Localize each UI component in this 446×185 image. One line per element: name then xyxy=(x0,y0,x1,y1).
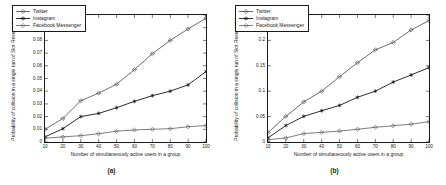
legend-item-twitter[interactable]: Twitter xyxy=(238,8,304,15)
legend-label: Twitter xyxy=(33,9,48,14)
y-tick-label: 0.05 xyxy=(33,76,42,81)
legend-item-facebook-messenger[interactable]: Facebook Messenger xyxy=(238,22,304,29)
legend-item-instagram[interactable]: Instagram xyxy=(15,15,81,22)
legend-marker-diamond-icon xyxy=(238,22,254,29)
y-tick-label: 0.06 xyxy=(33,64,42,69)
x-tick-label: 70 xyxy=(150,145,155,150)
y-tick-label: 0.15 xyxy=(256,64,265,69)
panel-a-legend: TwitterInstagramFacebook Messenger xyxy=(12,5,86,32)
y-tick-label: 0.05 xyxy=(256,114,265,119)
y-tick-label: 0.1 xyxy=(259,89,265,94)
y-tick-label: 0.08 xyxy=(33,38,42,43)
y-tick-label: 0.07 xyxy=(33,51,42,56)
x-tick-label: 100 xyxy=(202,145,210,150)
x-tick-label: 50 xyxy=(114,145,119,150)
x-tick-label: 70 xyxy=(373,145,378,150)
panel-a: Probability of collision in a single run… xyxy=(0,0,223,185)
panel-a-y-axis-label: Probability of collision in a single run… xyxy=(4,14,24,143)
legend-label: Instagram xyxy=(33,16,55,21)
panel-b-legend: TwitterInstagramFacebook Messenger xyxy=(235,5,309,32)
legend-item-facebook-messenger[interactable]: Facebook Messenger xyxy=(15,22,81,29)
legend-marker-diamond-icon xyxy=(15,22,31,29)
x-tick-label: 60 xyxy=(355,145,360,150)
legend-item-twitter[interactable]: Twitter xyxy=(15,8,81,15)
x-tick-label: 30 xyxy=(78,145,83,150)
panel-b: Probability of collision in a single run… xyxy=(223,0,446,185)
x-tick-label: 50 xyxy=(337,145,342,150)
x-tick-label: 80 xyxy=(168,145,173,150)
panel-a-plot-svg xyxy=(45,15,206,142)
panel-b-caption: (b) xyxy=(223,167,446,174)
legend-marker-asterisk-icon xyxy=(238,15,254,22)
legend-label: Instagram xyxy=(256,16,278,21)
x-tick-label: 40 xyxy=(319,145,324,150)
x-tick-label: 20 xyxy=(60,145,65,150)
y-tick-label: 0.02 xyxy=(33,114,42,119)
legend-marker-diamond-icon xyxy=(15,8,31,15)
y-tick-label: 0.03 xyxy=(33,102,42,107)
x-tick-label: 90 xyxy=(186,145,191,150)
panel-b-plot-area: 00.050.10.150.20.25102030405060708090100 xyxy=(267,14,430,143)
y-tick-label: 0.04 xyxy=(33,89,42,94)
panel-a-caption: (a) xyxy=(0,167,223,174)
x-tick-label: 90 xyxy=(409,145,414,150)
x-tick-label: 20 xyxy=(283,145,288,150)
panel-a-plot-area: 00.010.020.030.040.050.060.070.080.090.1… xyxy=(44,14,207,143)
y-tick-label: 0.01 xyxy=(33,127,42,132)
legend-label: Facebook Messenger xyxy=(256,23,304,28)
x-tick-label: 10 xyxy=(265,145,270,150)
legend-label: Facebook Messenger xyxy=(33,23,81,28)
x-tick-label: 30 xyxy=(301,145,306,150)
panel-b-plot-svg xyxy=(268,15,429,142)
legend-marker-diamond-icon xyxy=(238,8,254,15)
x-tick-label: 80 xyxy=(391,145,396,150)
figure-two-panel-line-charts: Probability of collision in a single run… xyxy=(0,0,446,185)
legend-item-instagram[interactable]: Instagram xyxy=(238,15,304,22)
panel-a-x-axis-label: Number of simultaneously active users in… xyxy=(44,152,207,157)
panel-b-x-axis-label: Number of simultaneously active users in… xyxy=(267,152,430,157)
x-tick-label: 100 xyxy=(425,145,433,150)
y-tick-label: 0.2 xyxy=(259,38,265,43)
legend-marker-asterisk-icon xyxy=(15,15,31,22)
panel-b-y-axis-label: Probability of collision in a single run… xyxy=(227,14,247,143)
x-tick-label: 40 xyxy=(96,145,101,150)
x-tick-label: 10 xyxy=(42,145,47,150)
x-tick-label: 60 xyxy=(132,145,137,150)
legend-label: Twitter xyxy=(256,9,271,14)
